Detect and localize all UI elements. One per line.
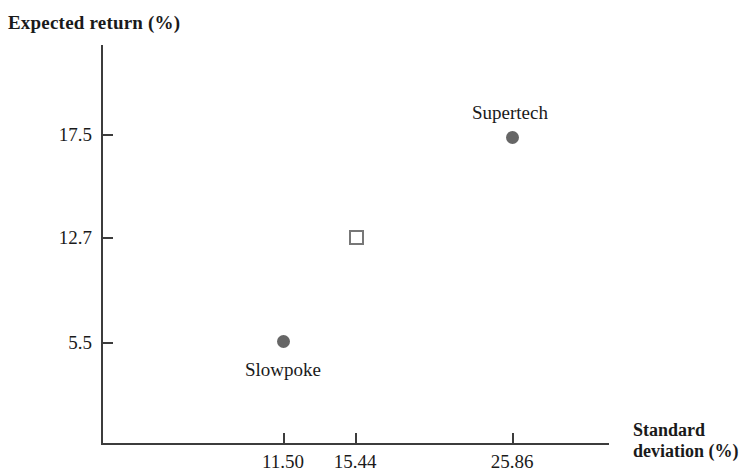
x-axis-title-line1: Standard bbox=[633, 420, 705, 440]
data-point-slowpoke bbox=[277, 335, 290, 348]
y-axis-tick-5-5 bbox=[103, 342, 113, 344]
x-axis-tick-11-50 bbox=[283, 433, 285, 443]
x-axis-title: Standard deviation (%) bbox=[633, 420, 739, 462]
data-point-supertech bbox=[506, 131, 519, 144]
y-axis-line bbox=[101, 45, 103, 445]
x-axis-title-line2: deviation (%) bbox=[633, 441, 739, 462]
y-axis-tick-12-7 bbox=[103, 237, 113, 239]
data-point-label-slowpoke: Slowpoke bbox=[203, 360, 363, 379]
x-axis-tick-15-44 bbox=[355, 433, 357, 443]
x-axis-label-15-44: 15.44 bbox=[310, 452, 400, 471]
y-axis-label-12-7: 12.7 bbox=[22, 228, 92, 247]
x-axis-tick-25-86 bbox=[512, 433, 514, 443]
y-axis-title: Expected return (%) bbox=[8, 12, 180, 34]
data-point-label-supertech: Supertech bbox=[430, 103, 590, 122]
y-axis-label-17-5: 17.5 bbox=[22, 125, 92, 144]
y-axis-label-5-5: 5.5 bbox=[22, 333, 92, 352]
x-axis-label-25-86: 25.86 bbox=[467, 452, 557, 471]
data-point-portfolio bbox=[349, 230, 364, 245]
x-axis-line bbox=[101, 443, 609, 445]
chart-canvas: Expected return (%) Standard deviation (… bbox=[0, 0, 747, 476]
y-axis-tick-17-5 bbox=[103, 134, 113, 136]
